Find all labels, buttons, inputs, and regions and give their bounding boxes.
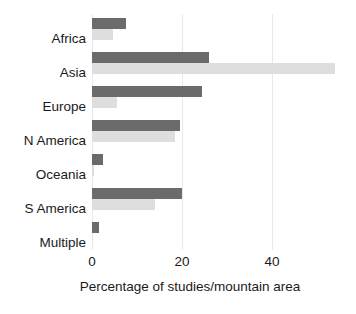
x-tick-label-0: 0 [88,254,96,269]
y-tick-label-asia: Asia [2,66,86,80]
plot-area [92,14,348,250]
bar-oceania-area [92,165,94,176]
x-tick-label-40: 40 [264,254,279,269]
bar-n-america-studies [92,120,180,131]
bar-group-africa [92,18,348,42]
y-tick-label-africa: Africa [2,32,86,46]
y-tick-label-s-america: S America [2,202,86,216]
bar-europe-area [92,97,117,108]
y-tick-label-oceania: Oceania [2,168,86,182]
y-axis-labels: Africa Asia Europe N America Oceania S A… [0,14,86,250]
bar-group-oceania [92,154,348,178]
bar-africa-studies [92,18,126,29]
bar-s-america-studies [92,188,182,199]
bar-group-europe [92,86,348,110]
bar-asia-area [92,63,335,74]
y-tick-label-n-america: N America [2,134,86,148]
bar-chart: Africa Asia Europe N America Oceania S A… [0,0,356,314]
bar-group-s-america [92,188,348,212]
bar-africa-area [92,29,113,40]
y-tick-label-europe: Europe [2,100,86,114]
x-tick-label-20: 20 [174,254,189,269]
bar-oceania-studies [92,154,103,165]
bar-n-america-area [92,131,175,142]
y-tick-label-multiple: Multiple [2,236,86,250]
bar-group-n-america [92,120,348,144]
bar-asia-studies [92,52,209,63]
bar-group-multiple [92,222,348,246]
bar-group-asia [92,52,348,76]
bar-s-america-area [92,199,155,210]
x-axis-title: Percentage of studies/mountain area [80,279,301,295]
bar-europe-studies [92,86,202,97]
x-axis-title-wrap: Percentage of studies/mountain area [0,279,356,295]
bar-multiple-studies [92,222,99,233]
